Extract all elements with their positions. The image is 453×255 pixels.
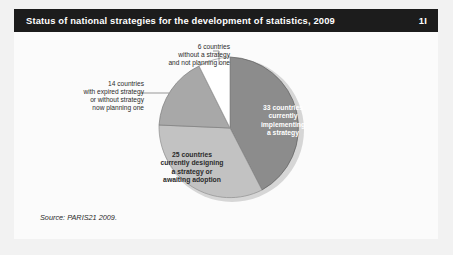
slice-label-implementing: 33 countries currently implementing a st… — [240, 104, 326, 138]
callout-label-no-strategy: 6 countries without a strategy and not p… — [124, 43, 230, 67]
figure-container: Status of national strategies for the de… — [0, 0, 453, 255]
figure-number-badge: 1I — [419, 9, 427, 32]
slice-label-designing: 25 countries currently designing a strat… — [146, 151, 238, 185]
figure-header-bar: Status of national strategies for the de… — [14, 9, 438, 32]
callout-label-expired: 14 countries with expired strategy or wi… — [38, 80, 144, 112]
figure-title: Status of national strategies for the de… — [26, 9, 335, 32]
source-note: Source: PARIS21 2009. — [40, 213, 117, 222]
chart-plot-area: 6 countries without a strategy and not p… — [14, 32, 438, 239]
